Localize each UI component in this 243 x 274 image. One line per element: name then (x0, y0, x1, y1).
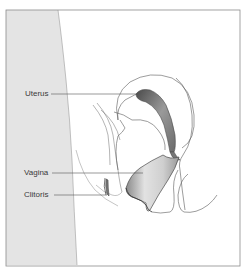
body-region (6, 10, 77, 265)
clitoris-shape (106, 179, 109, 196)
label-uterus: Uterus (25, 89, 49, 99)
posterior-wall (176, 78, 192, 210)
pubic-contour-1 (93, 105, 110, 165)
anatomy-diagram (0, 0, 243, 274)
anal-contour (178, 174, 217, 212)
skin-contour (76, 150, 118, 206)
pubic-symphysis (116, 120, 125, 170)
label-vagina: Vagina (24, 168, 48, 178)
vagina-shape (126, 155, 179, 211)
anatomy-figure: Uterus Vagina Clitoris (0, 0, 243, 274)
uterus-shape (136, 90, 175, 153)
bladder-lower (114, 112, 165, 150)
label-clitoris: Clitoris (24, 190, 48, 200)
